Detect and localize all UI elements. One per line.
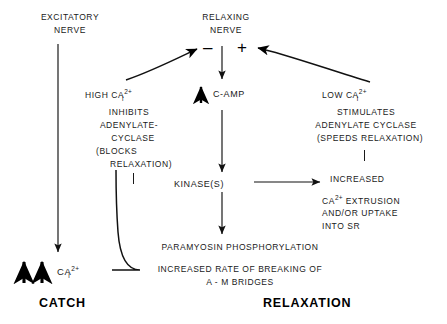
diagram-canvas: EXCITATORYNERVE RELAXINGNERVE – + HIGH C… bbox=[0, 0, 447, 324]
connector-layer bbox=[0, 0, 447, 324]
high-ca-to-minus-curve bbox=[126, 49, 197, 80]
catch-to-high-ca-curve bbox=[112, 170, 140, 270]
low-ca-to-plus-curve bbox=[258, 48, 370, 82]
